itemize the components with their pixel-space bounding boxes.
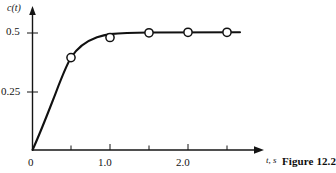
data-curve — [33, 32, 241, 150]
x-axis-ticks — [71, 144, 227, 150]
figure-caption: Figure 12.2 — [282, 155, 336, 167]
x-axis-label: t, s — [266, 156, 277, 165]
x-tick-label-0: 0 — [28, 157, 34, 168]
x-tick-label-2-0: 2.0 — [176, 157, 190, 168]
x-tick-label-1-0: 1.0 — [98, 157, 112, 168]
x-axis — [33, 146, 265, 154]
y-axis — [29, 6, 36, 150]
y-tick-label-0-5: 0.5 — [6, 26, 20, 37]
y-axis-label: c(t) — [7, 3, 21, 13]
y-tick-label-0-25: 0.25 — [1, 86, 20, 97]
